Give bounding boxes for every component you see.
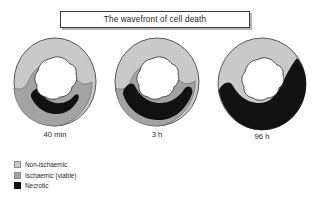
legend-label-non-ischaemic: Non-ischaemic <box>25 160 67 169</box>
legend-swatch-necrotic <box>14 182 21 189</box>
panel-label-3-h: 3 h <box>113 130 201 139</box>
legend: Non-ischaemic Ischaemic (viable) Necroti… <box>14 160 77 190</box>
legend-item-necrotic: Necrotic <box>14 181 77 190</box>
panel-96-h: 96 h <box>215 36 309 132</box>
panel-row: 40 min 3 h 96 h <box>0 36 320 148</box>
heart-cross-section-3-h <box>113 36 201 128</box>
legend-swatch-ischaemic-viable <box>14 172 21 179</box>
legend-item-ischaemic-viable: Ischaemic (viable) <box>14 171 77 180</box>
panel-40-min: 40 min <box>12 36 98 128</box>
heart-cross-section-96-h <box>215 36 309 132</box>
legend-label-necrotic: Necrotic <box>25 181 48 190</box>
heart-cross-section-40-min <box>12 36 98 128</box>
figure-title-banner: The wavefront of cell death <box>60 11 250 28</box>
panel-3-h: 3 h <box>113 36 201 128</box>
page-title: The wavefront of cell death <box>104 15 206 24</box>
legend-swatch-non-ischaemic <box>14 161 21 168</box>
panel-label-40-min: 40 min <box>12 130 98 139</box>
legend-item-non-ischaemic: Non-ischaemic <box>14 160 77 169</box>
legend-label-ischaemic-viable: Ischaemic (viable) <box>25 171 77 180</box>
panel-label-96-h: 96 h <box>215 132 309 141</box>
